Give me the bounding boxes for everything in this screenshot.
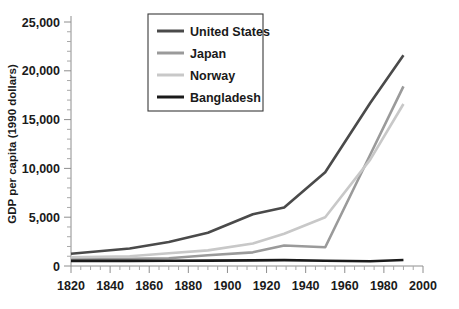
legend-label-united-states: United States [190, 25, 270, 39]
y-tick-label: 15,000 [22, 113, 60, 127]
x-tick-label: 1960 [331, 279, 359, 293]
x-tick-label: 1920 [253, 279, 281, 293]
y-axis-group: 05,00010,00015,00020,00025,000 GDP per c… [6, 16, 71, 274]
x-axis-minor-ticks [81, 266, 413, 270]
chart-container: 05,00010,00015,00020,00025,000 GDP per c… [0, 0, 459, 309]
x-tick-label: 1980 [370, 279, 398, 293]
legend-label-norway: Norway [190, 69, 235, 83]
x-axis-group: 1820184018601880190019201940196019802000 [57, 266, 437, 293]
y-axis-title: GDP per capita (1990 dollars) [6, 64, 18, 224]
gdp-per-capita-line-chart: 05,00010,00015,00020,00025,000 GDP per c… [0, 0, 459, 309]
x-tick-label: 1820 [57, 279, 85, 293]
y-axis-minor-ticks [67, 32, 71, 256]
legend-label-bangladesh: Bangladesh [190, 91, 261, 105]
x-tick-label: 1840 [96, 279, 124, 293]
x-axis-tick-labels: 1820184018601880190019201940196019802000 [57, 279, 437, 293]
x-tick-label: 1860 [135, 279, 163, 293]
series-line-bangladesh [71, 260, 403, 261]
y-axis-tick-labels: 05,00010,00015,00020,00025,000 [22, 16, 60, 274]
y-tick-label: 5,000 [29, 211, 60, 225]
y-tick-label: 25,000 [22, 16, 60, 30]
x-tick-label: 1880 [174, 279, 202, 293]
x-tick-label: 1900 [214, 279, 242, 293]
series-line-japan [71, 86, 403, 259]
legend-label-japan: Japan [190, 47, 226, 61]
y-tick-label: 10,000 [22, 162, 60, 176]
chart-legend: United StatesJapanNorwayBangladesh [148, 14, 270, 111]
x-tick-label: 2000 [409, 279, 437, 293]
y-axis-major-ticks [64, 22, 71, 266]
y-tick-label: 20,000 [22, 64, 60, 78]
x-tick-label: 1940 [292, 279, 320, 293]
y-tick-label: 0 [53, 260, 60, 274]
